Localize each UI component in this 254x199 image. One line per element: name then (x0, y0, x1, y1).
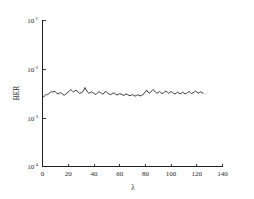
x-tick-label-6: 120 (192, 170, 203, 178)
chart-plot: 10-1 10-2 10-3 10-4 0 20 40 60 80 100 12… (0, 0, 254, 199)
figure-canvas: 10-1 10-2 10-3 10-4 0 20 40 60 80 100 12… (0, 0, 254, 199)
y-axis-title: BER (12, 86, 21, 101)
x-tick-label-3: 60 (116, 170, 124, 178)
x-tick-label-7: 140 (217, 170, 228, 178)
x-tick-label-4: 80 (142, 170, 150, 178)
plot-background (0, 0, 254, 199)
x-tick-label-0: 0 (41, 170, 45, 178)
x-tick-label-1: 20 (65, 170, 73, 178)
x-tick-label-5: 100 (166, 170, 177, 178)
x-axis-title: λ (131, 183, 135, 192)
x-tick-label-2: 40 (91, 170, 99, 178)
